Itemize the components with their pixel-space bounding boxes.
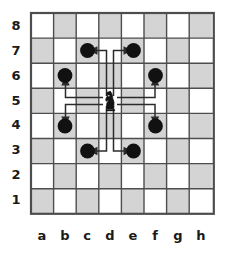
square-g1 xyxy=(167,189,190,214)
square-h8 xyxy=(189,13,212,38)
square-f2 xyxy=(144,164,167,189)
square-f7 xyxy=(144,38,167,63)
square-a2 xyxy=(31,164,54,189)
square-g2 xyxy=(167,164,190,189)
square-b7 xyxy=(54,38,77,63)
square-g8 xyxy=(167,13,190,38)
square-b3 xyxy=(54,139,77,164)
square-a6 xyxy=(31,63,54,88)
rank-label-5: 5 xyxy=(11,93,20,108)
square-c5 xyxy=(76,88,99,113)
square-c4 xyxy=(76,113,99,138)
square-e6 xyxy=(121,63,144,88)
square-h2 xyxy=(189,164,212,189)
square-d2 xyxy=(99,164,122,189)
file-label-a: a xyxy=(38,228,47,243)
square-c1 xyxy=(76,189,99,214)
rank-label-2: 2 xyxy=(11,167,20,182)
file-label-c: c xyxy=(83,228,91,243)
square-d4 xyxy=(99,113,122,138)
file-label-f: f xyxy=(152,228,158,243)
square-g6 xyxy=(167,63,190,88)
square-a4 xyxy=(31,113,54,138)
rank-label-7: 7 xyxy=(11,43,20,58)
marker-c7 xyxy=(80,43,95,58)
marker-b6 xyxy=(58,68,73,83)
square-c8 xyxy=(76,13,99,38)
file-label-e: e xyxy=(129,228,138,243)
square-g5 xyxy=(167,88,190,113)
square-a7 xyxy=(31,38,54,63)
square-h5 xyxy=(189,88,212,113)
rank-label-8: 8 xyxy=(11,18,20,33)
marker-f6 xyxy=(148,68,163,83)
file-label-d: d xyxy=(105,228,114,243)
marker-e7 xyxy=(126,43,141,58)
square-f1 xyxy=(144,189,167,214)
square-c6 xyxy=(76,63,99,88)
square-h4 xyxy=(189,113,212,138)
square-a1 xyxy=(31,189,54,214)
square-g7 xyxy=(167,38,190,63)
marker-f4 xyxy=(148,119,163,134)
marker-c3 xyxy=(80,144,95,159)
square-e5 xyxy=(121,88,144,113)
square-e1 xyxy=(121,189,144,214)
rank-label-4: 4 xyxy=(11,117,20,132)
square-d8 xyxy=(99,13,122,38)
square-h3 xyxy=(189,139,212,164)
file-label-h: h xyxy=(196,228,205,243)
square-f8 xyxy=(144,13,167,38)
square-a3 xyxy=(31,139,54,164)
square-d6 xyxy=(99,63,122,88)
square-h6 xyxy=(189,63,212,88)
square-e2 xyxy=(121,164,144,189)
square-g4 xyxy=(167,113,190,138)
square-d1 xyxy=(99,189,122,214)
square-c2 xyxy=(76,164,99,189)
marker-e3 xyxy=(126,144,141,159)
square-b8 xyxy=(54,13,77,38)
square-e4 xyxy=(121,113,144,138)
rank-label-3: 3 xyxy=(11,142,20,157)
square-g3 xyxy=(167,139,190,164)
square-f3 xyxy=(144,139,167,164)
square-h7 xyxy=(189,38,212,63)
square-b2 xyxy=(54,164,77,189)
square-a8 xyxy=(31,13,54,38)
rank-label-6: 6 xyxy=(11,68,20,83)
file-label-b: b xyxy=(60,228,69,243)
rank-labels: 8 7 6 5 4 3 2 1 xyxy=(11,18,20,207)
file-labels: a b c d e f g h xyxy=(38,228,206,243)
square-b1 xyxy=(54,189,77,214)
square-h1 xyxy=(189,189,212,214)
marker-b4 xyxy=(58,119,73,134)
knight-move-chessboard-diagram: 8 7 6 5 4 3 2 1 a b c d e f g h xyxy=(0,0,248,259)
rank-label-1: 1 xyxy=(11,192,20,207)
file-label-g: g xyxy=(173,228,182,243)
square-a5 xyxy=(31,88,54,113)
square-e8 xyxy=(121,13,144,38)
